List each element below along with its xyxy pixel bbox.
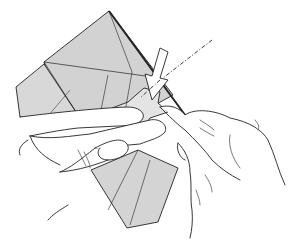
right-hand bbox=[160, 106, 285, 238]
origami-illustration bbox=[0, 0, 305, 242]
